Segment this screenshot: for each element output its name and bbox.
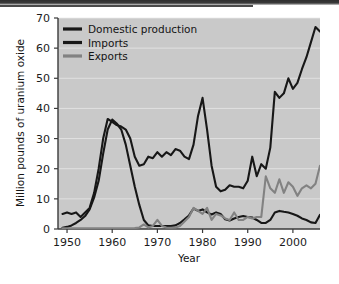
y-axis-ticks: 010203040506070 [36,12,58,236]
x-tick-label-1970: 1970 [143,236,171,249]
x-tick-label-1980: 1980 [189,236,217,249]
legend-label-exports: Exports [88,50,128,62]
x-tick-label-2000: 2000 [279,236,307,249]
y-tick-label-0: 0 [43,223,50,236]
y-tick-label-10: 10 [36,193,50,206]
x-tick-label-1950: 1950 [53,236,81,249]
legend-label-imports: Imports [88,37,128,49]
y-tick-label-20: 20 [36,163,50,176]
x-tick-label-1990: 1990 [234,236,262,249]
uranium-oxide-line-chart: 010203040506070 195019601970198019902000… [0,0,339,284]
y-axis-title: Million pounds of uranium oxide [14,39,26,207]
chart-figure: 010203040506070 195019601970198019902000… [0,0,339,284]
y-tick-label-60: 60 [36,42,50,55]
y-tick-label-40: 40 [36,102,50,115]
y-tick-label-30: 30 [36,133,50,146]
legend-label-domestic-production: Domestic production [88,23,197,35]
x-axis-title: Year [177,252,201,264]
y-tick-label-70: 70 [36,12,50,25]
x-tick-label-1960: 1960 [98,236,126,249]
x-axis-ticks: 195019601970198019902000 [53,229,307,249]
y-tick-label-50: 50 [36,72,50,85]
